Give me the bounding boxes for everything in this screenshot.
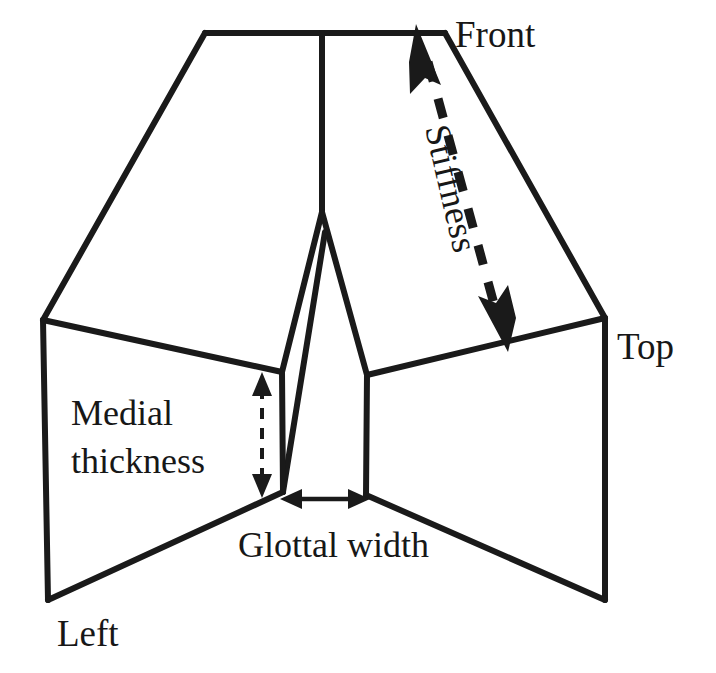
vocal-fold-diagram: Stiffness Front Top Left Medial thicknes… <box>0 0 716 673</box>
label-medial-thickness-line2: thickness <box>71 441 205 481</box>
edge-right-inner-vertical <box>366 375 367 495</box>
label-front: Front <box>455 14 536 55</box>
label-left: Left <box>57 613 119 654</box>
label-top: Top <box>617 326 674 367</box>
edge-left-inner-vertical <box>282 372 283 492</box>
label-medial-thickness-line1: Medial <box>71 393 173 433</box>
diagram-canvas: Stiffness Front Top Left Medial thicknes… <box>0 0 716 673</box>
left-superior-face <box>43 33 322 372</box>
glottal-width-arrow <box>280 489 370 509</box>
label-glottal-width: Glottal width <box>238 525 429 565</box>
